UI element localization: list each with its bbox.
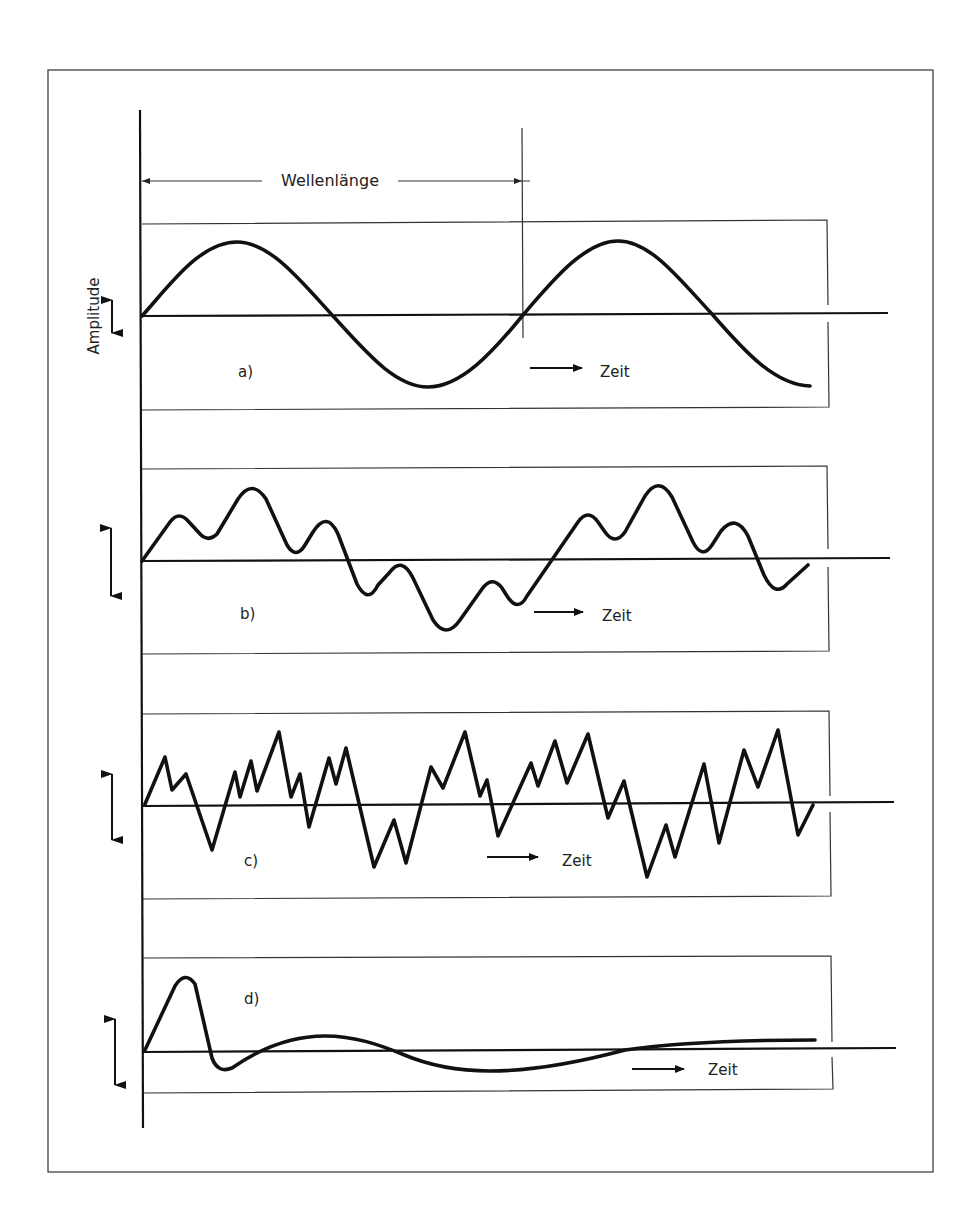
panel-label-d: d): [244, 990, 259, 1008]
panel-label-b: b): [240, 605, 255, 623]
panel-a: a) Zeit: [112, 220, 888, 410]
panel-d: d) Zeit: [115, 956, 896, 1093]
time-label-a: Zeit: [600, 363, 630, 381]
amplitude-label: Amplitude: [85, 278, 103, 355]
vertical-axis: [140, 110, 143, 1128]
wave-diagram: Wellenlänge Amplitude a) Zeit b) Zeit c)…: [0, 0, 966, 1223]
panel-b: b) Zeit: [111, 466, 890, 654]
wavelength-label: Wellenlänge: [281, 171, 379, 190]
panel-label-c: c): [244, 852, 258, 870]
outer-frame: [48, 70, 933, 1172]
panel-label-a: a): [238, 363, 253, 381]
time-label-c: Zeit: [562, 852, 592, 870]
panel-c: c) Zeit: [112, 711, 894, 899]
time-label-d: Zeit: [708, 1061, 738, 1079]
time-label-b: Zeit: [602, 607, 632, 625]
wavelength-dimension: Wellenlänge: [142, 128, 530, 338]
